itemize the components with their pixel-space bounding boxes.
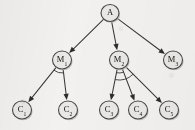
node-c4[interactable]: C4 [129,101,149,120]
edge-a-to-m3 [118,19,165,54]
node-label: A [107,7,114,17]
edge-m2-to-c3 [110,70,117,100]
node-m2[interactable]: M2 [110,51,130,70]
angle-mark-m1 [54,70,64,73]
angle-mark-layer [54,70,133,80]
arrow-head [110,94,115,101]
angle-mark-m2 [115,74,133,80]
tree-diagram-figure: AM1M2M3C1C2C3C4C5 [0,0,195,130]
arrow-head [113,44,118,51]
node-c2[interactable]: C2 [59,101,79,120]
edge-m2-to-c5 [126,67,162,103]
arrow-head [63,94,68,100]
arrow-head [130,94,135,101]
arrow-head [158,48,165,54]
edge-a-to-m1 [69,20,103,53]
node-c5[interactable]: C5 [160,101,180,120]
node-c1[interactable]: C1 [13,101,33,120]
edge-m1-to-c1 [28,68,56,102]
node-a[interactable]: A [101,5,120,23]
edge-a-to-m2 [112,22,119,50]
node-m3[interactable]: M3 [164,51,184,70]
tree-graph-canvas: AM1M2M3C1C2C3C4C5 [0,0,195,130]
edge-layer [28,19,165,103]
angle-mark-m2 [116,72,123,73]
node-c3[interactable]: C3 [100,101,120,120]
edge-m1-to-c2 [63,70,68,100]
node-layer: AM1M2M3C1C2C3C4C5 [13,5,184,121]
